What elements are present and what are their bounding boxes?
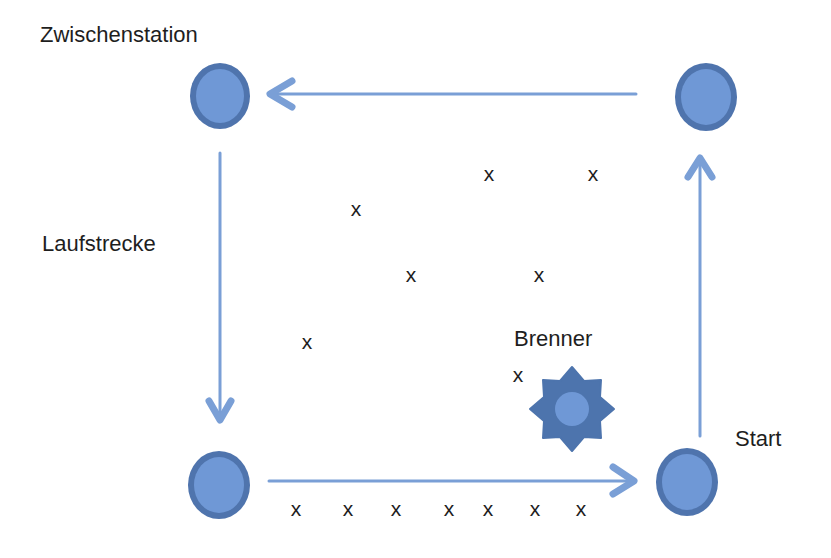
station-start (656, 448, 718, 516)
bottom-arrow-right (269, 467, 634, 494)
station-bottom-left (188, 451, 250, 519)
x-mark: x (351, 198, 362, 219)
right-arrow-up (688, 158, 712, 436)
x-mark: x (534, 264, 545, 285)
x-mark: x (513, 364, 524, 385)
x-mark: x (588, 163, 599, 184)
x-mark: x (483, 498, 494, 519)
x-mark: x (484, 163, 495, 184)
left-arrow-down (209, 153, 231, 420)
label-brenner: Brenner (514, 328, 592, 350)
label-zwischenstation: Zwischenstation (40, 24, 198, 46)
label-laufstrecke: Laufstrecke (42, 233, 156, 255)
station-top-right (675, 63, 737, 131)
x-mark: x (343, 498, 354, 519)
x-mark: x (291, 498, 302, 519)
x-mark: x (406, 264, 417, 285)
burner-star-icon (530, 367, 614, 451)
station-zwischenstation (190, 63, 250, 129)
top-arrow-left (270, 81, 636, 107)
x-mark: x (530, 498, 541, 519)
x-mark: x (391, 498, 402, 519)
x-mark: x (576, 498, 587, 519)
x-mark: x (444, 498, 455, 519)
label-start: Start (735, 428, 781, 450)
x-mark: x (302, 331, 313, 352)
